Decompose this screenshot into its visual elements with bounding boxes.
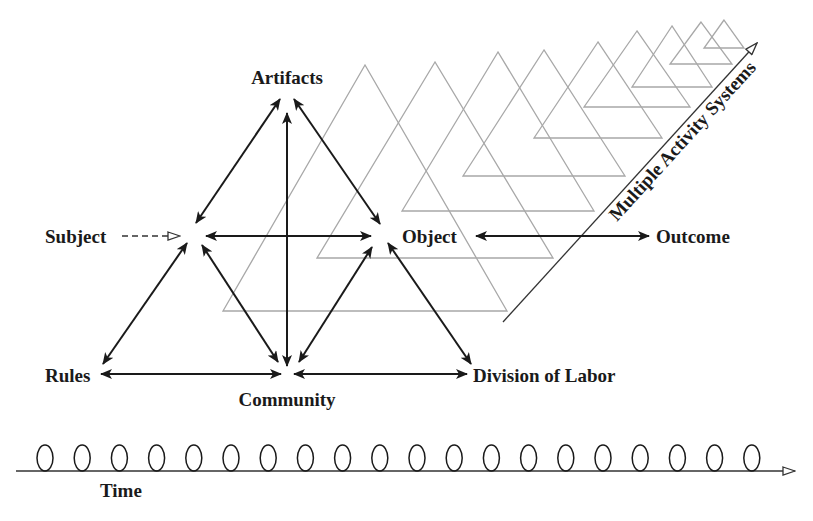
time-loop: [409, 445, 425, 471]
time-loop: [632, 445, 648, 471]
edge-object-division: [388, 243, 471, 364]
node-community: Community: [238, 389, 336, 410]
node-object: Object: [402, 226, 458, 247]
time-label: Time: [100, 480, 142, 501]
node-rules: Rules: [45, 365, 90, 386]
time-loop: [744, 445, 760, 471]
node-outcome: Outcome: [656, 226, 730, 247]
activity-system-diagram: Multiple Activity Systems Artifacts Subj…: [0, 0, 813, 521]
activity-triangle-6: [584, 31, 690, 107]
activity-triangle-3: [402, 52, 594, 211]
time-loop: [521, 445, 537, 471]
time-loop: [74, 445, 90, 471]
time-loop: [446, 445, 462, 471]
node-division-of-labor: Division of Labor: [473, 365, 616, 386]
time-loop: [707, 445, 723, 471]
time-loop: [111, 445, 127, 471]
node-subject: Subject: [45, 226, 107, 247]
time-loop: [335, 445, 351, 471]
edge-artifacts-object: [294, 99, 380, 224]
time-loop: [558, 445, 574, 471]
activity-triangle-8: [670, 22, 732, 64]
activity-triangle-1: [223, 65, 507, 311]
edge-subject-artifacts: [196, 99, 280, 223]
activity-triangle-7: [632, 26, 712, 87]
time-axis: Time: [16, 445, 795, 501]
time-loop: [260, 445, 276, 471]
time-loop: [149, 445, 165, 471]
time-loop: [37, 445, 53, 471]
node-artifacts: Artifacts: [251, 67, 323, 88]
time-loop: [669, 445, 685, 471]
edge-subject-rules: [103, 243, 187, 364]
time-loop: [483, 445, 499, 471]
time-loop: [186, 445, 202, 471]
time-loop: [297, 445, 313, 471]
edge-object-community: [299, 247, 372, 362]
edge-subject-community: [202, 245, 278, 362]
time-loop: [223, 445, 239, 471]
time-loop: [372, 445, 388, 471]
time-loops: [37, 445, 760, 471]
activity-edges: [101, 99, 649, 374]
time-loop: [595, 445, 611, 471]
multiple-systems-label: Multiple Activity Systems: [604, 57, 759, 225]
activity-triangle-5: [534, 42, 662, 138]
